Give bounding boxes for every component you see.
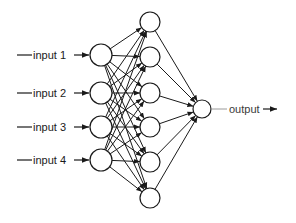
input-2-text: input 2 <box>33 87 66 99</box>
hidden-node-1 <box>140 12 160 32</box>
input-label-3: input 3 <box>17 121 89 133</box>
connection <box>159 112 193 124</box>
output-node <box>193 100 211 118</box>
input-label-1: input 1 <box>17 49 89 61</box>
neural-network-diagram: input 1 input 2 input 3 input 4 output <box>0 0 296 223</box>
connection <box>160 96 194 106</box>
hidden-node-3 <box>140 83 160 103</box>
connection <box>155 31 197 102</box>
connection <box>155 117 197 190</box>
hidden-node-2 <box>140 47 160 67</box>
input-3-text: input 3 <box>33 121 66 133</box>
nodes <box>90 12 211 208</box>
hidden-node-6 <box>140 188 160 208</box>
input-label-2: input 2 <box>17 87 89 99</box>
connection <box>110 133 142 156</box>
hidden-node-4 <box>140 117 160 137</box>
input-node-4 <box>90 149 112 171</box>
input-node-1 <box>90 44 112 66</box>
connection <box>106 31 146 117</box>
input-label-4: input 4 <box>17 154 89 166</box>
hidden-node-5 <box>140 152 160 172</box>
input-4-text: input 4 <box>33 154 66 166</box>
input-1-text: input 1 <box>33 49 66 61</box>
input-node-2 <box>90 82 112 104</box>
connection <box>157 115 196 154</box>
output-text: output <box>229 103 260 115</box>
output-label: output <box>211 103 277 115</box>
connection <box>112 160 140 161</box>
input-node-3 <box>90 116 112 138</box>
connection <box>110 28 142 49</box>
